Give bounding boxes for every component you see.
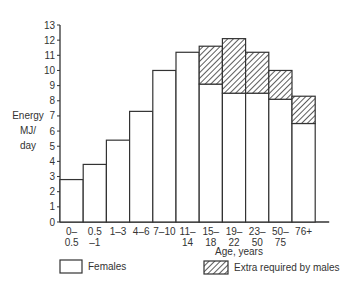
- y-tick-label: 1: [49, 201, 55, 212]
- x-tick-label: 1–3: [110, 226, 127, 237]
- x-tick-label: 0–: [66, 226, 78, 237]
- bar-females: [83, 164, 106, 222]
- bar-extra-males: [199, 46, 222, 84]
- bar-females: [199, 84, 222, 222]
- x-tick-label: 75: [275, 237, 287, 248]
- x-tick-label: 14: [182, 237, 194, 248]
- y-tick-label: 2: [49, 186, 55, 197]
- y-tick-label: 12: [44, 35, 56, 46]
- y-axis-label: EnergyMJ/day: [12, 110, 44, 151]
- y-tick-label: 3: [49, 171, 55, 182]
- legend-swatch-extra-males: [204, 261, 228, 274]
- legend-swatch-females: [60, 260, 82, 273]
- energy-requirement-chart: 012345678910111213 0–0.50.5–11–34–67–101…: [0, 0, 346, 291]
- y-tick-label: 7: [49, 110, 55, 121]
- y-tick-label: 0: [49, 217, 55, 228]
- x-tick-label: 4–6: [133, 226, 150, 237]
- bar-females: [153, 70, 176, 222]
- bar-females: [176, 52, 199, 222]
- bar-females: [292, 124, 315, 223]
- x-axis-title: Age, years: [215, 246, 263, 257]
- x-axis-labels: 0–0.50.5–11–34–67–1011–1415–1819–2223–50…: [65, 226, 313, 248]
- y-axis-label-line: day: [20, 140, 36, 151]
- x-tick-label: 23–: [249, 226, 266, 237]
- bar-extra-males: [269, 70, 292, 99]
- x-tick-label: 0.5: [65, 237, 79, 248]
- y-axis-label-line: Energy: [12, 110, 44, 121]
- bar-females: [60, 180, 83, 222]
- legend-label-females: Females: [88, 261, 126, 272]
- x-tick-label: 0.5: [88, 226, 102, 237]
- x-tick-label: 11–: [180, 226, 196, 237]
- x-tick-label: 15–: [202, 226, 219, 237]
- legend: FemalesExtra required by males: [60, 260, 340, 274]
- x-tick-label: 76+: [295, 226, 312, 237]
- y-tick-label: 4: [49, 156, 55, 167]
- x-tick-label: 7–10: [153, 226, 176, 237]
- x-tick-label: –1: [89, 237, 101, 248]
- bar-females: [222, 93, 245, 222]
- y-tick-label: 5: [49, 141, 55, 152]
- y-tick-label: 13: [44, 20, 56, 31]
- bar-females: [106, 140, 129, 222]
- x-tick-label: 50–: [272, 226, 289, 237]
- x-tick-label: 19–: [226, 226, 243, 237]
- y-tick-label: 8: [49, 95, 55, 106]
- y-tick-label: 6: [49, 126, 55, 137]
- y-axis-label-line: MJ/: [20, 125, 36, 136]
- bars: [60, 39, 315, 222]
- y-tick-label: 9: [49, 80, 55, 91]
- bar-females: [130, 111, 153, 222]
- y-tick-label: 11: [45, 50, 56, 61]
- bar-extra-males: [222, 39, 245, 94]
- bar-extra-males: [292, 96, 315, 123]
- bar-females: [269, 99, 292, 222]
- legend-label-extra-males: Extra required by males: [234, 262, 340, 273]
- bar-extra-males: [246, 52, 269, 93]
- y-tick-label: 10: [44, 65, 56, 76]
- bar-females: [246, 93, 269, 222]
